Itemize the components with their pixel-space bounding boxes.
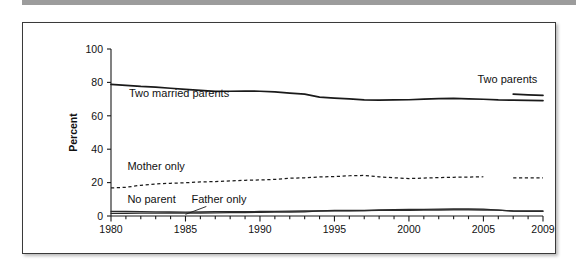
series-label-father-only: Father only [191,193,247,205]
series-line-two-parents [513,94,543,95]
y-tick-label: 0 [97,210,103,222]
x-tick-label: 2005 [472,223,496,235]
series-line-mother-only [111,175,483,188]
y-tick-label: 60 [91,110,103,122]
top-divider-bar [22,0,576,5]
series-label-mother-only: Mother only [127,160,185,172]
series-label-no-parent: No parent [127,193,175,205]
y-tick-label: 100 [85,43,103,55]
y-tick-label: 80 [91,76,103,88]
line-chart: 0204060801001980198519901995200020052009… [23,23,555,253]
series-annotations: Two married parentsTwo parentsMother onl… [127,73,537,214]
x-tick-label: 1985 [174,223,198,235]
x-tick-label: 1995 [323,223,347,235]
x-tick-label: 1990 [248,223,272,235]
x-tick-label: 2009 [531,223,555,235]
figure-frame: 0204060801001980198519901995200020052009… [22,22,556,254]
series-group [111,84,543,213]
y-axis-title: Percent [67,113,79,152]
series-label-two-parents: Two parents [477,73,537,85]
axes-group: 0204060801001980198519901995200020052009… [67,43,555,235]
y-tick-label: 20 [91,176,103,188]
x-tick-label: 1980 [99,223,123,235]
series-label-two-married-parents: Two married parents [129,87,230,99]
x-tick-label: 2000 [397,223,421,235]
y-tick-label: 40 [91,143,103,155]
